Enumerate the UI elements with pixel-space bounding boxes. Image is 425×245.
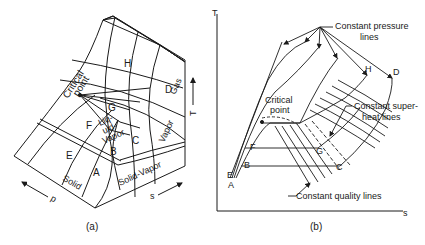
caption-a: (a) (86, 221, 98, 232)
figure-b-labels: T s Constant pressure lines Critical poi… (212, 8, 418, 232)
p-axis-label: p (49, 193, 58, 204)
figure-a-labels: Critical point H D G F C B E A Liq- uid-… (49, 58, 198, 232)
point-c-label-b: C (336, 162, 343, 172)
t-axis-label-b: T (212, 8, 218, 18)
point-b-label-b: B (244, 160, 250, 170)
constant-pressure-label-2: lines (360, 32, 379, 42)
gas-region-label: Gas (168, 76, 184, 96)
point-a-label-b: A (228, 180, 234, 190)
solid-region-label: Solid (61, 173, 83, 192)
point-e-label-b: E (227, 170, 233, 180)
point-e-label: E (66, 150, 73, 161)
superheat-label-1: Constant super- (354, 101, 418, 111)
figure-a-surface (14, 16, 193, 208)
point-d-label-b: D (393, 67, 400, 77)
point-f-label-b: F (250, 142, 256, 152)
point-h-label: H (124, 58, 131, 69)
point-c-label: C (132, 135, 139, 146)
constant-quality-label: Constant quality lines (296, 191, 382, 201)
point-b-label: B (110, 146, 117, 157)
critical-point-label-b-1: Critical (265, 95, 293, 105)
constant-pressure-label-1: Constant pressure (335, 21, 409, 31)
s-axis-label-a: s (150, 191, 155, 201)
point-g-label: G (108, 102, 116, 113)
critical-point-label-b-2: point (270, 105, 290, 115)
t-axis-label-a: T (188, 110, 198, 116)
point-f-label: F (86, 120, 92, 131)
superheat-label-2: heat lines (362, 112, 401, 122)
point-g-label-b: G (316, 146, 323, 156)
s-axis-label-b: s (403, 208, 408, 218)
point-a-label: A (93, 167, 100, 178)
point-h-label-b: H (365, 64, 372, 74)
caption-b: (b) (310, 221, 322, 232)
